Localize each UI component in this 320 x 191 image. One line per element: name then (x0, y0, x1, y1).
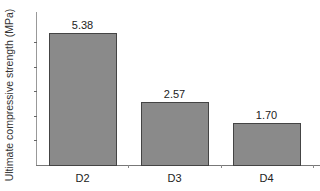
x-tick (221, 165, 222, 168)
y-axis-label: Ultimate compressive strength (MPa) (3, 9, 15, 182)
x-tick-label-d2: D2 (49, 172, 116, 184)
y-tick-3 (34, 91, 37, 92)
x-tick (313, 165, 314, 168)
x-tick-label-d3: D3 (141, 172, 208, 184)
x-tick-label-d4: D4 (233, 172, 300, 184)
bar-d4 (233, 123, 301, 166)
y-tick-1 (34, 140, 37, 141)
y-tick-5 (34, 42, 37, 43)
value-label-d2: 5.38 (49, 19, 116, 31)
y-tick-2 (34, 116, 37, 117)
x-tick (128, 165, 129, 168)
bar-d2 (49, 33, 117, 166)
y-axis-line (36, 12, 37, 166)
bar-d3 (141, 102, 209, 166)
y-tick-4 (34, 67, 37, 68)
value-label-d3: 2.57 (141, 88, 208, 100)
value-label-d4: 1.70 (233, 109, 300, 121)
